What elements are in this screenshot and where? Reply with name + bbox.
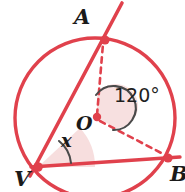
point-A-dot (100, 35, 109, 44)
angle-label-120-degrees: 120° (114, 86, 160, 105)
angle-label-x: x (61, 132, 72, 150)
point-V-dot (33, 162, 43, 172)
point-label-B: B (170, 163, 185, 184)
point-label-O: O (76, 114, 93, 133)
geometry-figure: A O V B x 120° (0, 0, 185, 192)
point-label-A: A (74, 6, 90, 27)
point-O-dot (93, 113, 101, 121)
point-label-V: V (14, 168, 30, 189)
dashed-radius-OB (100, 121, 165, 155)
